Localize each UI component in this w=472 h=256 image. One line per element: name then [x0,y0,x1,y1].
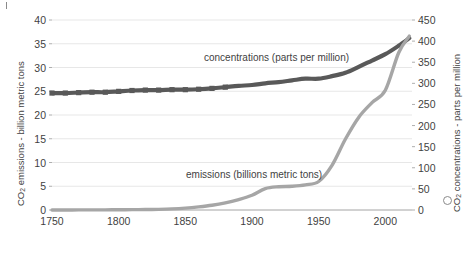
co2-chart: 0510152025303540 05010015020025030035040… [0,0,472,256]
y-right-tick-50: 50 [418,184,442,195]
y-left-tick-35: 35 [24,39,46,50]
y-right-tick-300: 300 [418,78,442,89]
series-marker [209,86,214,91]
x-tick-1850: 1850 [165,216,205,227]
y-right-tick-200: 200 [418,121,442,132]
y-left-tick-40: 40 [24,15,46,26]
x-tick-1950: 1950 [299,216,339,227]
y-right-tick-450: 450 [418,15,442,26]
series-marker [223,85,228,90]
series-marker [156,87,161,92]
y-left-tick-0: 0 [24,205,46,216]
y-right-tick-250: 250 [418,99,442,110]
y-left-tick-10: 10 [24,158,46,169]
x-tick-1750: 1750 [32,216,72,227]
y-right-tick-350: 350 [418,57,442,68]
y-right-tick-100: 100 [418,163,442,174]
y-axis-left-title: CO2 emissions - billion metric tons [16,61,27,206]
x-tick-1900: 1900 [232,216,272,227]
y-left-tick-30: 30 [24,63,46,74]
series-marker [196,87,201,92]
series-marker [103,90,108,95]
y-right-tick-0: 0 [418,205,442,216]
series-marker [76,90,81,95]
y-right-tick-400: 400 [418,36,442,47]
y-left-tick-20: 20 [24,110,46,121]
x-tick-2000: 2000 [365,216,405,227]
series-marker [89,90,94,95]
annotation-emissions: emissions (billions metric tons) [186,170,322,180]
series-marker [169,87,174,92]
y-left-tick-5: 5 [24,181,46,192]
y-right-tick-150: 150 [418,142,442,153]
annotation-concentrations: concentrations (parts per million) [204,53,349,63]
series-line-concentrations [52,38,409,93]
x-tick-1800: 1800 [99,216,139,227]
gridlines [52,20,412,210]
series-marker [49,90,54,95]
y-left-tick-15: 15 [24,134,46,145]
series-marker [116,89,121,94]
series-marker [129,88,134,93]
series-marker [63,90,68,95]
series-marker [183,87,188,92]
series-marker [143,87,148,92]
y-axis-right-title: CO2 concentrations - parts per million [452,54,463,212]
y-left-tick-25: 25 [24,86,46,97]
